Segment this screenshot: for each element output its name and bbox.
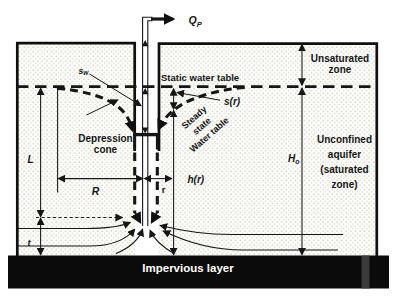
svg-text:zone: zone xyxy=(329,64,352,75)
svg-text:(saturated: (saturated xyxy=(320,164,368,175)
impervious-layer-seam xyxy=(362,256,370,289)
svg-text:cone: cone xyxy=(94,144,118,155)
figure-canvas: Impervious layer xyxy=(0,0,395,301)
label-static-water-table: Static water table xyxy=(161,72,239,83)
svg-text:zone): zone) xyxy=(331,179,357,190)
impervious-layer: Impervious layer xyxy=(8,256,389,289)
label-R: R xyxy=(92,185,100,197)
impervious-layer-label: Impervious layer xyxy=(142,262,234,274)
svg-text:Unsaturated: Unsaturated xyxy=(311,53,369,64)
label-sr: s(r) xyxy=(224,96,241,107)
aquifer-pumping-well-diagram: Impervious layer xyxy=(0,0,395,301)
label-hr: h(r) xyxy=(188,174,205,185)
label-r: r xyxy=(162,184,166,195)
svg-text:Depression: Depression xyxy=(78,133,132,144)
label-L: L xyxy=(27,154,33,165)
svg-text:Unconfined: Unconfined xyxy=(317,134,372,145)
svg-text:aquifer: aquifer xyxy=(328,149,361,160)
left-aquifer-fill xyxy=(17,42,136,256)
left-aquifer-block xyxy=(17,42,136,256)
